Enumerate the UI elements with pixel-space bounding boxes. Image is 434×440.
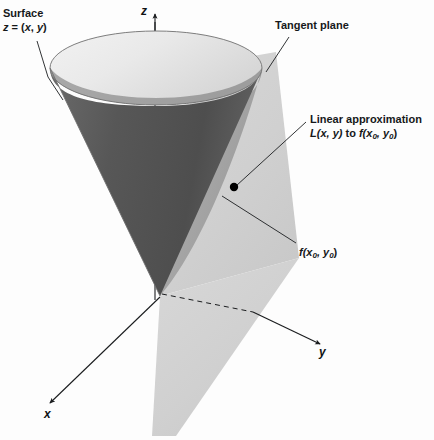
point-value-mid: , y [317, 246, 329, 258]
surface-label-line2: z = (x, y) [3, 20, 47, 34]
linear-args: (x, y) [317, 127, 343, 139]
diagram-canvas [0, 0, 434, 440]
linear-fclose: ) [394, 127, 398, 139]
linear-L: L [310, 127, 317, 139]
tangent-plane-label: Tangent plane [275, 18, 349, 32]
y-axis-line [253, 312, 320, 344]
point-value-label: f(x0, y0) [299, 245, 337, 263]
linear-to: to [342, 127, 359, 139]
tangent-plane-figure: Surface z = (x, y) Tangent plane Linear … [0, 0, 434, 440]
surface-label: Surface z = (x, y) [3, 6, 47, 34]
surface-eq-op: = ( [9, 21, 25, 33]
point-value-close: ) [334, 246, 338, 258]
surface-eq-close: ) [43, 21, 47, 33]
x-axis-label: x [44, 407, 51, 421]
linear-approximation-label: Linear approximation L(x, y) to f(x0, y0… [310, 112, 422, 144]
linear-approximation-line2: L(x, y) to f(x0, y0) [310, 126, 422, 144]
y-axis-label: y [319, 345, 326, 359]
tangency-point-marker [230, 183, 238, 191]
linear-fopen: (x [363, 127, 373, 139]
linear-fmid: , y [377, 127, 389, 139]
x-axis-line [50, 297, 160, 403]
point-value-open: (x [303, 246, 313, 258]
z-axis-label: z [141, 4, 147, 18]
surface-label-line1: Surface [3, 6, 47, 20]
linear-approximation-line1: Linear approximation [310, 112, 422, 126]
